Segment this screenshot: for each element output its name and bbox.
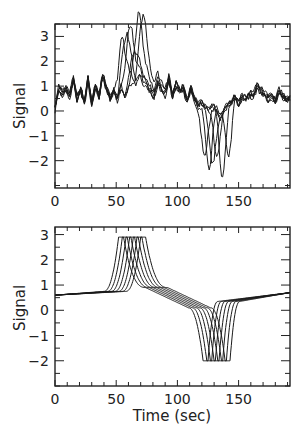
bottom-y-tick-labels: 3210−1−2	[28, 227, 49, 369]
y-tick-label: −1	[28, 328, 49, 344]
bottom-axis-ticks	[55, 227, 290, 386]
top-panel: 050100150 3210−1−2 Signal	[11, 12, 290, 209]
top-axes-frame	[55, 24, 290, 188]
y-tick-label: −1	[28, 128, 49, 144]
y-tick-label: −2	[28, 153, 49, 169]
x-tick-label: 50	[107, 193, 125, 209]
y-tick-label: 0	[40, 302, 49, 318]
y-tick-label: 1	[40, 277, 49, 293]
y-tick-label: 2	[40, 53, 49, 69]
bottom-y-axis-label: Signal	[11, 285, 29, 331]
x-tick-label: 0	[51, 391, 60, 407]
y-tick-label: 3	[40, 227, 49, 243]
x-tick-label: 150	[225, 391, 252, 407]
bottom-x-tick-labels: 050100150	[51, 391, 252, 407]
top-x-tick-labels: 050100150	[51, 193, 252, 209]
y-tick-label: 0	[40, 103, 49, 119]
y-tick-label: −2	[28, 353, 49, 369]
x-tick-label: 50	[107, 391, 125, 407]
top-signal-traces	[55, 12, 290, 177]
top-y-tick-labels: 3210−1−2	[28, 28, 49, 168]
x-tick-label: 0	[51, 193, 60, 209]
bottom-panel: 050100150 3210−1−2 Signal Time (sec)	[11, 227, 290, 425]
y-tick-label: 2	[40, 252, 49, 268]
signal-trace	[55, 51, 290, 156]
x-tick-label: 100	[164, 193, 191, 209]
top-y-axis-label: Signal	[11, 83, 29, 129]
x-tick-label: 150	[225, 193, 252, 209]
x-tick-label: 100	[164, 391, 191, 407]
figure: 050100150 3210−1−2 Signal 050100150 3210…	[0, 0, 306, 442]
y-tick-label: 3	[40, 28, 49, 44]
signal-trace	[55, 14, 290, 157]
bottom-x-axis-label: Time (sec)	[132, 407, 211, 425]
y-tick-label: 1	[40, 78, 49, 94]
top-axis-ticks	[55, 24, 290, 188]
bottom-axes-frame	[55, 227, 290, 386]
bottom-model-traces	[55, 237, 290, 361]
